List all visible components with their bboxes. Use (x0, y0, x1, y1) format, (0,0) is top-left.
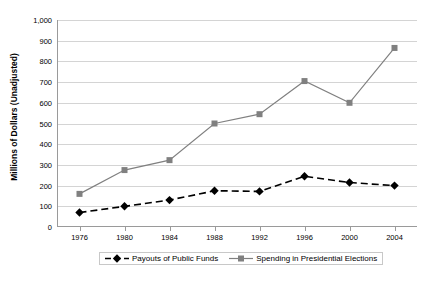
y-axis-tick-labels: 01002003004005006007008009001,000 (5, 20, 52, 227)
data-point-square (302, 78, 308, 84)
data-point-diamond (113, 254, 121, 262)
x-axis-tick-label: 2000 (341, 233, 358, 242)
y-axis-tick-label: 400 (8, 140, 52, 149)
x-axis-tick-label: 1980 (116, 233, 133, 242)
y-axis-tick-label: 500 (8, 119, 52, 128)
x-axis-tick (80, 227, 81, 231)
y-axis-tick-label: 600 (8, 98, 52, 107)
legend-item[interactable]: Payouts of Public Funds (105, 254, 218, 263)
y-axis-tick-label: 1,000 (8, 16, 52, 25)
x-axis-tick-label: 1992 (251, 233, 268, 242)
y-axis-tick-label: 700 (8, 78, 52, 87)
y-axis-tick-label: 100 (8, 202, 52, 211)
data-point-square (257, 111, 263, 117)
x-axis-tick (260, 227, 261, 231)
x-axis-tick (305, 227, 306, 231)
data-point-square (347, 100, 353, 106)
data-point-diamond (210, 187, 218, 195)
data-point-square (212, 121, 218, 127)
data-point-square (77, 191, 83, 197)
x-axis-tick-label: 1988 (206, 233, 223, 242)
y-axis-tick-label: 900 (8, 36, 52, 45)
x-axis-tick (395, 227, 396, 231)
series-layer (57, 20, 417, 227)
data-point-diamond (345, 178, 353, 186)
data-point-square (167, 157, 173, 163)
data-point-diamond (300, 172, 308, 180)
legend-label: Spending in Presidential Elections (256, 254, 377, 263)
y-axis-tick-label: 300 (8, 160, 52, 169)
legend-label: Payouts of Public Funds (132, 254, 218, 263)
data-point-square (122, 167, 128, 173)
x-axis-tick-label: 1996 (296, 233, 313, 242)
x-axis-tick (350, 227, 351, 231)
x-axis-tick (170, 227, 171, 231)
y-axis-tick-label: 0 (8, 223, 52, 232)
x-axis-tick-label: 1976 (71, 233, 88, 242)
x-axis-tick (215, 227, 216, 231)
data-point-diamond (390, 181, 398, 189)
y-axis-tick-label: 200 (8, 181, 52, 190)
data-point-diamond (165, 196, 173, 204)
chart-legend: Payouts of Public FundsSpending in Presi… (99, 252, 383, 265)
data-point-square (238, 256, 244, 262)
legend-swatch-diamond (105, 254, 129, 263)
x-axis-ticks (57, 227, 417, 232)
x-axis-tick-label: 1984 (161, 233, 178, 242)
data-point-diamond (255, 187, 263, 195)
y-axis-tick-label: 800 (8, 57, 52, 66)
x-axis-tick-labels: 19761980198419881992199620002004 (57, 233, 417, 245)
x-axis-tick (125, 227, 126, 231)
data-point-diamond (75, 208, 83, 216)
legend-swatch-square (229, 254, 253, 263)
x-axis-tick-label: 2004 (386, 233, 403, 242)
data-point-diamond (120, 202, 128, 210)
chart-container: Millions of Dollars (Unadjusted) 0100200… (0, 0, 435, 287)
legend-item[interactable]: Spending in Presidential Elections (229, 254, 377, 263)
data-point-square (392, 45, 398, 51)
